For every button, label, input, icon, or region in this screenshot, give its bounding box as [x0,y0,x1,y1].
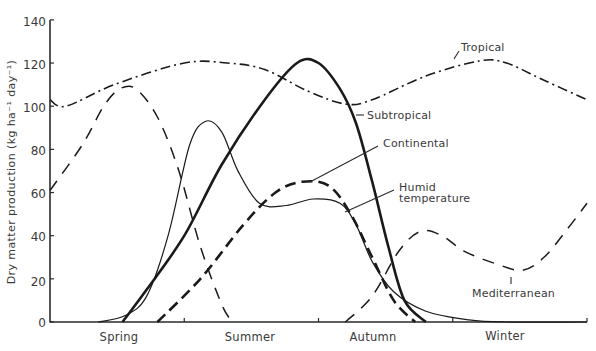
y-tick-label-120: 120 [23,58,46,72]
label-mediterranean: Mediterranean [472,287,555,300]
axes [50,20,587,323]
series-lines [50,59,587,322]
y-tick-label-20: 20 [31,275,46,289]
humid-leader [345,190,394,212]
season-label-spring: Spring [100,330,139,344]
y-axis-label: Dry matter production (kg ha⁻¹ day⁻¹) [5,60,18,285]
y-tick-label-80: 80 [31,144,46,158]
y-tick-label-140: 140 [23,15,46,29]
season-label-summer: Summer [225,330,276,344]
y-tick-label-0: 0 [38,316,46,330]
series-annotations [310,51,511,284]
season-labels: Spring Summer Autumn Winter [100,329,525,344]
y-tick-label-60: 60 [31,187,46,201]
series-line-tropical [50,60,587,107]
season-label-autumn: Autumn [349,330,396,344]
label-humid-line2: temperature [399,192,470,205]
label-continental: Continental [383,137,449,150]
tropical-leader [454,51,459,59]
y-tick-label-40: 40 [31,230,46,244]
y-tick-label-100: 100 [23,101,46,115]
label-tropical: Tropical [460,41,505,54]
y-tick-labels: 0 20 40 60 80 100 120 140 [23,15,46,330]
season-label-winter: Winter [485,329,525,343]
dry-matter-production-chart: 0 20 40 60 80 100 120 140 Dry matter pro… [0,0,596,351]
label-subtropical: Subtropical [367,109,431,122]
series-label-texts: Tropical Subtropical Continental Humid t… [367,41,555,300]
